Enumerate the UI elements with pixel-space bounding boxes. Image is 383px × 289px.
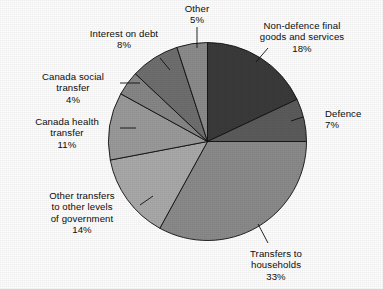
slice-label-other: Other 5% (168, 3, 226, 26)
leader-line-transfers-households (258, 224, 268, 243)
slice-label-canada-health: Canada health transfer 11% (18, 116, 116, 150)
slice-label-non-defence: Non-defence final goods and services 18% (242, 20, 362, 54)
slice-label-defence: Defence 7% (325, 108, 381, 131)
slice-label-transfers-households: Transfers to households 33% (230, 248, 322, 282)
slice-label-other-transfers: Other transfers to other levels of gover… (30, 190, 134, 236)
pie-chart: Non-defence final goods and services 18%… (0, 0, 383, 289)
slice-label-interest-debt: Interest on debt 8% (78, 28, 170, 51)
slice-label-canada-social: Canada social transfer 4% (28, 71, 118, 105)
pie-slice-group (108, 43, 306, 241)
